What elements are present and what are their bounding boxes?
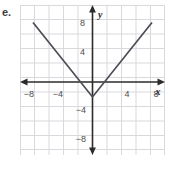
- y-axis-label: y: [97, 9, 103, 20]
- x-tick-label--8: −8: [24, 89, 34, 99]
- x-tick-label-4: 4: [124, 89, 129, 99]
- x-axis-label: x: [155, 86, 161, 97]
- coordinate-plane: −8 −4 4 8 8 4 −4 −8 y x: [20, 5, 165, 155]
- figure-container: e.: [0, 0, 179, 169]
- y-tick-label-8: 8: [80, 18, 85, 28]
- graph-svg: −8 −4 4 8 8 4 −4 −8 y x: [20, 5, 165, 155]
- x-tick-label--4: −4: [53, 89, 63, 99]
- y-tick-label--4: −4: [76, 105, 86, 115]
- y-tick-label--8: −8: [76, 134, 86, 144]
- item-letter-label: e.: [2, 6, 11, 18]
- y-tick-label-4: 4: [80, 47, 85, 57]
